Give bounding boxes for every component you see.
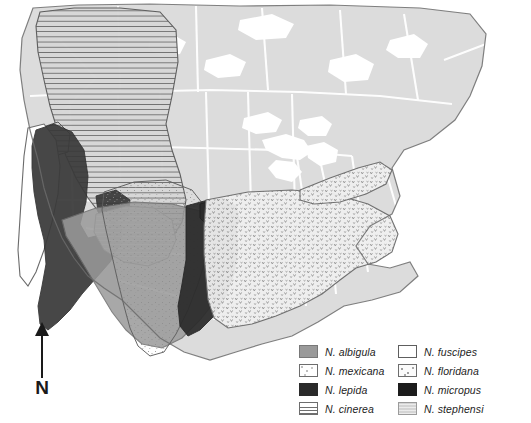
legend-swatch-n-fuscipes: [398, 345, 417, 358]
legend-label-n-lepida: N. lepida: [325, 384, 367, 396]
legend-label-n-mexicana: N. mexicana: [325, 365, 384, 377]
legend-label-n-stephensi: N. stephensi: [424, 403, 484, 415]
legend-swatch-n-lepida: [299, 383, 318, 396]
north-arrow-label: N: [24, 378, 60, 398]
legend-item-n-micropus: N. micropus: [398, 381, 508, 398]
legend-swatch-n-cinerea: [299, 402, 318, 415]
map-legend: N. albigula N. mexicana N. lepida N. cin…: [299, 343, 525, 419]
legend-item-n-cinerea: N. cinerea: [299, 400, 409, 417]
legend-item-n-albigula: N. albigula: [299, 343, 409, 360]
legend-column-right: N. fuscipes N. floridana N. micropus N. …: [398, 343, 508, 419]
north-arrow-icon: N: [24, 322, 64, 398]
legend-item-n-stephensi: N. stephensi: [398, 400, 508, 417]
legend-column-left: N. albigula N. mexicana N. lepida N. cin…: [299, 343, 409, 419]
north-arrow-shaft: [41, 332, 43, 378]
legend-item-n-mexicana: N. mexicana: [299, 362, 409, 379]
legend-label-n-micropus: N. micropus: [424, 384, 481, 396]
legend-label-n-fuscipes: N. fuscipes: [424, 346, 477, 358]
legend-item-n-fuscipes: N. fuscipes: [398, 343, 508, 360]
legend-swatch-n-stephensi: [398, 402, 417, 415]
legend-item-n-floridana: N. floridana: [398, 362, 508, 379]
legend-swatch-n-mexicana: [299, 364, 318, 377]
legend-swatch-n-floridana: [398, 364, 417, 377]
legend-label-n-floridana: N. floridana: [424, 365, 479, 377]
legend-swatch-n-micropus: [398, 383, 417, 396]
species-distribution-map-figure: N N. albigula N. mexicana N. lepida N. c…: [0, 0, 531, 423]
legend-label-n-cinerea: N. cinerea: [325, 403, 374, 415]
legend-label-n-albigula: N. albigula: [325, 346, 376, 358]
legend-swatch-n-albigula: [299, 345, 318, 358]
legend-item-n-lepida: N. lepida: [299, 381, 409, 398]
